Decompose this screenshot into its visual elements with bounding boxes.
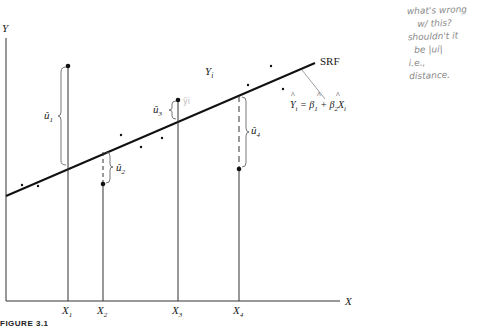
brace-u3 xyxy=(169,101,176,119)
handwritten-annotation: what's wrong w/ this? shouldn't it be |u… xyxy=(407,3,481,83)
u1-label: û1 xyxy=(44,109,53,124)
svg-text:^: ^ xyxy=(336,91,340,100)
u3-label: û3 xyxy=(153,103,163,118)
figure-caption: FIGURE 3.1 xyxy=(0,319,49,328)
y-axis-label: Y xyxy=(2,22,10,34)
obs-x1 xyxy=(66,64,71,69)
obs-x4 xyxy=(237,167,242,172)
svg-text:^: ^ xyxy=(317,91,321,100)
obs-x2 xyxy=(101,182,106,187)
equation-leader xyxy=(302,70,325,99)
brace-u2 xyxy=(106,152,113,183)
yi-label: Yi xyxy=(205,65,213,80)
scatter-dots xyxy=(21,65,284,187)
x3-tick: X3 xyxy=(171,304,183,319)
svg-text:^: ^ xyxy=(291,91,295,100)
x1-tick: X1 xyxy=(61,304,72,319)
srf-label: SRF xyxy=(320,55,340,67)
svg-text:Yi = β1 + β2Xi: Yi = β1 + β2Xi xyxy=(290,99,346,113)
x2-tick: X2 xyxy=(96,304,108,319)
u4-label: û4 xyxy=(251,124,261,139)
x4-tick: X4 xyxy=(232,304,244,319)
x-axis-label: X xyxy=(344,295,353,307)
brace-u4 xyxy=(242,97,249,167)
srf-equation: Yi = β1 + β2Xi ^ ^ ^ xyxy=(290,91,346,113)
u2-label: û2 xyxy=(116,161,126,176)
srf-line xyxy=(6,63,315,196)
annotation-line: distance. xyxy=(409,68,481,84)
obs-x3 xyxy=(176,98,181,103)
pencil-mark: ŷi xyxy=(183,97,190,106)
brace-u1 xyxy=(58,67,66,165)
